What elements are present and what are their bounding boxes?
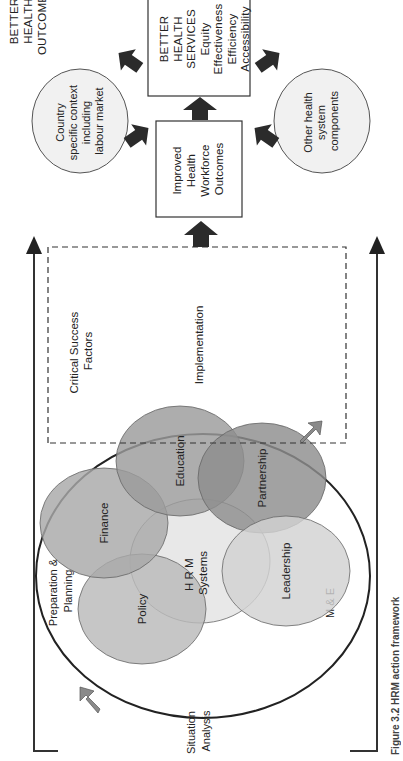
implementation-arrow — [184, 221, 218, 247]
critical-success-factors-label: Critical Success Factors — [68, 308, 94, 393]
hrm-label-leadership: Leadership — [280, 543, 292, 600]
figure-caption: Figure 3.2 HRM action framework — [390, 596, 401, 755]
other-to-services-arrow — [251, 42, 287, 78]
hrm-label-finance: Finance — [98, 503, 110, 544]
diagram-canvas: Situation Analysis Preparation & Plannin… — [0, 0, 403, 761]
final-outcome-text: BETTERHEALTHOUTCOMES — [8, 0, 48, 55]
workforce-to-services-arrow — [183, 97, 217, 120]
cycle-arrow-left — [80, 687, 100, 713]
hrm-framework-diagram: Situation Analysis Preparation & Plannin… — [0, 0, 403, 761]
hrm-label-policy: Policy — [136, 593, 148, 624]
situation-analysis-label: Situation Analysis — [185, 708, 212, 754]
me-timeline-arrow — [350, 238, 377, 751]
hrm-label-partnership: Partnership — [256, 449, 268, 508]
implementation-label: Implementation — [193, 306, 205, 385]
cycle-arrow-right — [300, 421, 322, 443]
country-to-services-arrow — [111, 42, 147, 78]
